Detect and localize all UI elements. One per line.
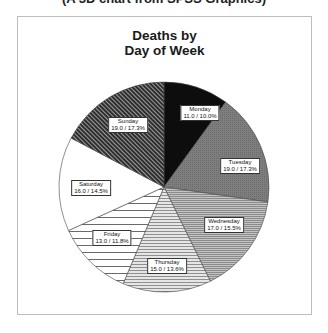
label-wednesday: Wednesday 17.0 / 15.5% (204, 217, 244, 233)
label-thursday: Thursday 15.0 / 13.6% (147, 258, 187, 274)
label-monday: Monday 11.0 / 10.0% (180, 105, 219, 121)
label-sunday: Sunday 19.0 / 17.3% (108, 117, 148, 133)
label-friday: Friday 13.0 / 11.8% (92, 230, 131, 246)
label-tuesday: Tuesday 19.0 / 17.3% (220, 158, 260, 174)
pie-chart (0, 0, 328, 333)
label-saturday: Saturday 16.0 / 14.5% (71, 180, 111, 196)
